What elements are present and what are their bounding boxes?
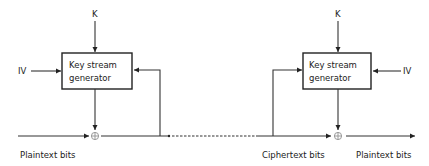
encryptor-box-line2: generator [69,73,111,83]
decryptor-plaintext-label: Plaintext bits [356,150,412,160]
decryptor-box-line2: generator [309,73,351,83]
encryptor-plaintext-label: Plaintext bits [20,150,76,160]
decryptor-xor-icon [334,132,341,139]
decryptor-box-line1: Key stream [309,60,357,70]
encryptor-key-label: K [92,9,98,19]
ciphertext-label: Ciphertext bits [262,150,325,160]
encryptor-keystream-generator-box [62,53,132,89]
encryptor-output-node [168,135,170,137]
decryptor-key-label: K [335,9,341,19]
decryptor-iv-label: IV [403,66,412,76]
encryptor-box-line1: Key stream [69,60,117,70]
decryptor-keystream-generator-box [303,53,371,89]
encryptor: K IV Key stream generator Plaintext bits [18,9,170,160]
encryptor-xor-icon [91,132,98,139]
encryptor-iv-label: IV [18,66,27,76]
decryptor-feedback-line [273,70,302,136]
decryptor: K Key stream generator IV Ciphertext bit… [258,9,415,160]
stream-cipher-diagram: K IV Key stream generator Plaintext bits… [0,0,429,166]
encryptor-feedback-line [134,70,160,136]
